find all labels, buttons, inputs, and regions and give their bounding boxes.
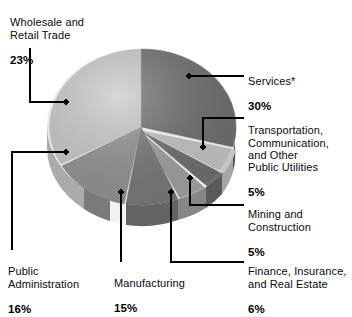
callout-wholesale-percent: 23% [10, 54, 140, 67]
callout-manufacturing: Manufacturing 15% [114, 265, 210, 317]
callout-transportation-text: Transportation, Communication, and Other… [248, 124, 352, 173]
callout-public-administration-text: Public Administration [8, 265, 118, 290]
callout-services-text: Services* [248, 75, 348, 87]
callout-wholesale-text: Wholesale and Retail Trade [10, 16, 140, 41]
leader-dot-finance [168, 189, 173, 194]
callout-public-administration-percent: 16% [8, 303, 118, 316]
callout-finance-text: Finance, Insurance, and Real Estate [248, 265, 352, 290]
leader-dot-mining [187, 175, 192, 180]
leader-dot-services [186, 73, 191, 78]
leader-dot-manufacturing [118, 189, 123, 194]
callout-public-administration: Public Administration 16% [8, 253, 118, 317]
callout-finance: Finance, Insurance, and Real Estate 6% [248, 253, 352, 317]
leader-dot-public-administration [63, 149, 68, 154]
leader-dot-transportation [200, 144, 205, 149]
callout-finance-percent: 6% [248, 303, 352, 316]
callout-wholesale: Wholesale and Retail Trade 23% [10, 4, 140, 79]
leader-dot-wholesale [63, 99, 68, 104]
callout-manufacturing-text: Manufacturing [114, 277, 210, 289]
callout-mining-text: Mining and Construction [248, 208, 348, 233]
callout-manufacturing-percent: 15% [114, 302, 210, 315]
